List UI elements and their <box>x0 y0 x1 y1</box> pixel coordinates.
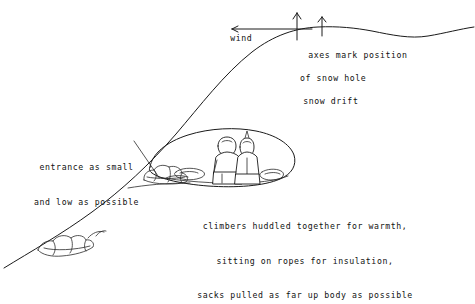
ice-axe-icon <box>293 13 301 40</box>
rock-outcrop-icon <box>38 231 106 257</box>
label-wind: wind <box>208 21 252 56</box>
label-axes-line1: axes mark position <box>308 50 408 60</box>
label-snow-drift: snow drift <box>281 84 358 119</box>
label-wind-text: wind <box>230 33 252 43</box>
rope-coil-icon <box>260 169 284 180</box>
label-climbers-note: climbers huddled together for warmth, si… <box>175 198 435 304</box>
label-entrance: entrance as small and low as possible <box>34 139 139 231</box>
label-entrance-line1: entrance as small <box>34 162 139 174</box>
label-snow-drift-text: snow drift <box>303 96 358 106</box>
label-axes-line2: of snow hole <box>286 73 408 85</box>
label-climbers-line3: sacks pulled as far up body as possible <box>175 290 435 302</box>
snow-block-pile-icon <box>144 165 188 184</box>
label-entrance-line2: and low as possible <box>34 197 139 209</box>
label-climbers-line1: climbers huddled together for warmth, <box>175 221 435 233</box>
label-climbers-line2: sitting on ropes for insulation, <box>175 256 435 268</box>
climber-figure-icon <box>235 131 260 184</box>
